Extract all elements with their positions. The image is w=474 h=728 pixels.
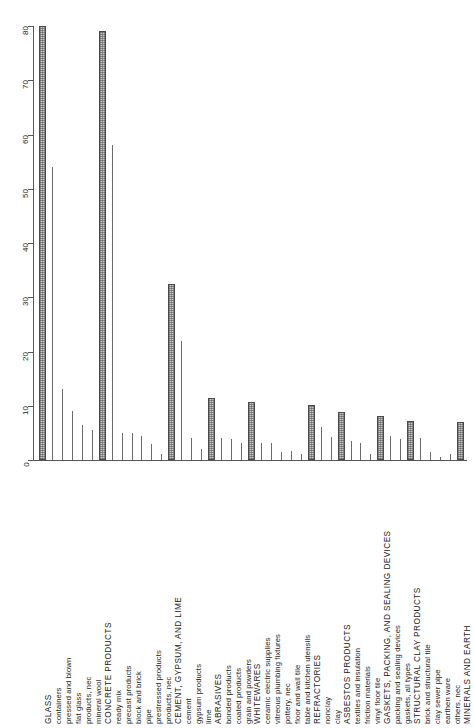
y-axis-tick-label: 20 <box>22 352 31 361</box>
category-label-sub: clay <box>334 710 342 724</box>
category-label-sub: friction materials <box>364 666 372 724</box>
category-label-sub: precast products <box>125 665 133 724</box>
bar-sub <box>281 452 282 460</box>
category-label-sub: products, nec <box>85 676 93 724</box>
bar-major <box>168 284 175 460</box>
category-label-major: CEMENT, GYPSUM, AND LIME <box>175 597 183 724</box>
y-axis-tick-label: 80 <box>22 26 31 35</box>
category-label-sub: floor and wall tile <box>294 665 302 724</box>
y-axis-tick-label-wrap: 10 <box>25 406 26 407</box>
y-axis-tick-label: 10 <box>22 406 31 415</box>
bar-sub <box>92 430 93 460</box>
category-label-major: GASKETS, PACKING, AND SEALING DEVICES <box>384 531 392 725</box>
bar-sub <box>331 437 332 460</box>
bar-major <box>457 422 464 460</box>
y-axis-tick-label-wrap: 30 <box>25 297 26 298</box>
category-label-sub: lime <box>205 709 213 724</box>
category-label-sub: nonclay <box>324 697 332 724</box>
category-label-sub: table and kitchen utensils <box>304 635 312 724</box>
bar-major <box>248 402 255 460</box>
category-label-sub: pottery, nec <box>284 683 292 724</box>
category-label-sub: gypsum products <box>195 664 203 724</box>
y-axis-tick-label: 0 <box>22 462 31 466</box>
bar-chart: 01020304050607080 GLASScontainerspressed… <box>0 0 474 728</box>
category-label-sub: prestressed products <box>155 650 163 724</box>
bar-major <box>99 31 106 460</box>
category-label-sub: earthen ware <box>444 678 452 724</box>
bar-sub <box>370 454 371 460</box>
category-label-sub: brick and structural tile <box>424 644 432 724</box>
category-label-sub: others, nec <box>454 685 462 724</box>
y-axis-tick-label: 30 <box>22 297 31 306</box>
category-label-sub: clay sewer pipe <box>434 669 442 724</box>
bar-sub <box>301 454 302 461</box>
category-label-sub: coated products <box>235 668 243 724</box>
bar-major <box>308 405 315 460</box>
bar-sub <box>201 449 202 460</box>
category-labels: GLASScontainerspressed and blownflat gla… <box>33 462 467 728</box>
bar-sub <box>390 436 391 460</box>
category-label-sub: block and brick <box>135 671 143 724</box>
y-axis-tick-label-wrap: 60 <box>25 135 26 136</box>
y-axis-tick-label: 50 <box>22 189 31 198</box>
bar-sub <box>400 439 401 460</box>
bar-sub <box>321 427 322 460</box>
category-label-sub: bonded products <box>225 665 233 724</box>
category-label-sub: vinyl floor tile <box>374 678 382 724</box>
category-label-major: CONCRETE PRODUCTS <box>105 622 113 724</box>
bar-sub <box>221 438 222 460</box>
bar-sub <box>132 433 133 460</box>
bar-sub <box>122 433 123 460</box>
category-label-sub: pressed and blown <box>65 658 73 724</box>
category-label-sub: products, nec <box>165 676 173 724</box>
category-label-sub: mineral wool <box>95 680 103 724</box>
category-label-sub: packing and sealing devices <box>394 625 402 724</box>
bar-sub <box>420 438 421 460</box>
bar-sub <box>72 411 73 460</box>
bar-major <box>338 412 345 460</box>
y-axis-tick-label-wrap: 20 <box>25 352 26 353</box>
y-axis-tick-label-wrap: 50 <box>25 189 26 190</box>
bar-sub <box>241 443 242 460</box>
bar-major <box>407 421 414 460</box>
y-axis-tick-label-wrap: 0 <box>25 460 26 461</box>
category-label-sub: ceramic electric supplies <box>264 638 272 724</box>
bar-sub <box>271 443 272 460</box>
category-label-sub: gaskets, all types <box>404 663 412 724</box>
y-axis-tick-label-wrap: 80 <box>25 26 26 27</box>
bar-sub <box>450 454 451 461</box>
bar-major <box>39 26 46 460</box>
y-axis-tick-label-wrap: 70 <box>25 80 26 81</box>
x-axis-line <box>33 460 467 461</box>
bar-sub <box>351 441 352 460</box>
bar-sub <box>181 341 182 460</box>
category-label-sub: vitreous plumbing fixtures <box>274 634 282 724</box>
bar-major <box>208 398 215 460</box>
bar-sub <box>191 438 192 460</box>
category-label-sub: grain and powders <box>245 659 253 724</box>
category-label-sub: cement <box>185 698 193 724</box>
category-label-sub: containers <box>55 687 63 724</box>
category-label-major: GLASS <box>45 694 53 724</box>
bar-sub <box>430 452 431 460</box>
bar-sub <box>161 454 162 461</box>
category-label-sub: ready mix <box>115 690 123 724</box>
bar-sub <box>82 425 83 460</box>
category-label-major: ASBESTOS PRODUCTS <box>344 624 352 724</box>
bar-sub <box>261 443 262 460</box>
category-label-major: WHITEWARES <box>254 663 262 724</box>
bar-sub <box>231 439 232 460</box>
category-label-major: REFRACTORIES <box>314 655 322 724</box>
bar-sub <box>62 389 63 460</box>
y-axis-tick-label: 40 <box>22 243 31 252</box>
bar-sub <box>52 167 53 460</box>
category-label-sub: pipe <box>145 709 153 724</box>
bar-sub <box>360 443 361 460</box>
bar-sub <box>112 145 113 460</box>
bar-sub <box>141 436 142 460</box>
bar-sub <box>151 444 152 460</box>
y-axis-tick-label: 60 <box>22 135 31 144</box>
category-label-major: ABRASIVES <box>215 674 223 724</box>
bar-major <box>377 416 384 460</box>
bar-sub <box>440 457 441 460</box>
